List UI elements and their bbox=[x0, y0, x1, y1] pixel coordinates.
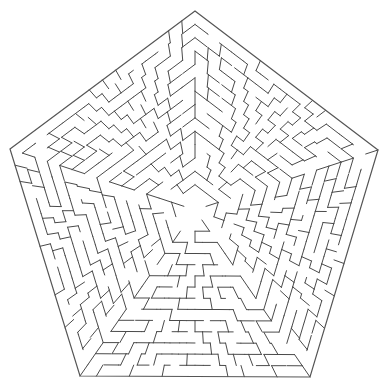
maze-wall-segments bbox=[15, 21, 378, 377]
maze-outer-wall bbox=[10, 11, 378, 377]
maze-inner-walls bbox=[15, 21, 378, 377]
maze-canvas bbox=[0, 0, 391, 390]
pentagon-maze bbox=[0, 0, 391, 390]
